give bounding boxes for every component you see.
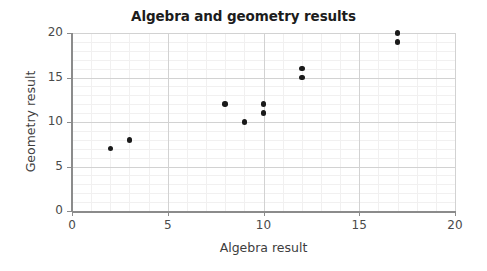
data-point	[261, 101, 267, 107]
data-point	[127, 137, 133, 143]
y-axis-label: Geometry result	[23, 42, 38, 202]
data-point	[242, 119, 248, 125]
y-tick-label: 20	[25, 25, 63, 39]
x-tick-label: 10	[244, 218, 284, 232]
data-point	[299, 75, 305, 81]
x-tick-label: 20	[435, 218, 475, 232]
x-tick-label: 5	[148, 218, 188, 232]
data-points-layer	[72, 33, 455, 211]
data-point	[108, 146, 114, 152]
data-point	[299, 66, 305, 72]
y-tick-mark	[67, 78, 72, 79]
x-tick-mark	[72, 211, 73, 216]
x-tick-label: 15	[339, 218, 379, 232]
data-point	[395, 30, 401, 36]
chart-title: Algebra and geometry results	[0, 8, 487, 24]
x-tick-label: 0	[52, 218, 92, 232]
data-point	[395, 39, 401, 45]
y-tick-mark	[67, 122, 72, 123]
x-tick-mark	[455, 211, 456, 216]
y-tick-mark	[67, 211, 72, 212]
data-point	[261, 110, 267, 116]
gridline-vertical	[455, 33, 456, 211]
y-tick-mark	[67, 33, 72, 34]
y-tick-mark	[67, 167, 72, 168]
x-tick-mark	[264, 211, 265, 216]
plot-area	[72, 33, 455, 211]
y-tick-label: 0	[25, 203, 63, 217]
scatter-plot-figure: Algebra and geometry results 05101520051…	[0, 0, 487, 271]
data-point	[222, 101, 228, 107]
x-tick-mark	[168, 211, 169, 216]
x-axis-label: Algebra result	[72, 240, 455, 255]
x-tick-mark	[359, 211, 360, 216]
